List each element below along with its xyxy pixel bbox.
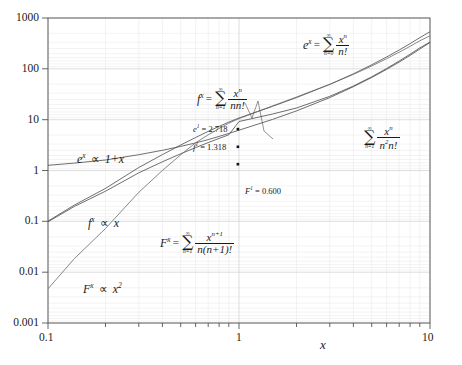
sigma-n2-lower: n=1 — [365, 144, 374, 149]
pt-e1-sup: 1 — [197, 123, 200, 129]
point-f1 — [237, 146, 240, 149]
sigma-ex: ∞ ∑ n=0 — [323, 33, 334, 56]
asym-Fx-rhs-sup: 2 — [118, 281, 122, 290]
pt-f1-sup: 1 — [195, 141, 198, 147]
x-tick-1: 1 — [236, 331, 242, 343]
annotation-formula-Fx: Fx = ∞ ∑ n=1 xn+1 n(n+1)! — [160, 230, 235, 256]
y-tick-1: 1 — [0, 164, 39, 176]
formula-n2-num-sup: n — [389, 124, 392, 131]
point-F1 — [237, 163, 240, 166]
formula-Fx-den: n(n+1)! — [195, 243, 234, 256]
asym-ex-rhs: 1+x — [105, 152, 124, 166]
sigma-Fx-lower: n=1 — [183, 249, 192, 254]
formula-fx-lhs-sup: x — [200, 91, 203, 100]
y-tick-0.01: 0.01 — [0, 265, 39, 277]
sigma-Fx: ∞ ∑ n=1 — [182, 231, 193, 254]
log-log-chart: 1000 100 10 1 0.1 0.01 0.001 0.1 1 10 x … — [0, 0, 462, 365]
plot-area-svg — [0, 0, 462, 365]
sigma-fx: ∞ ∑ n=1 — [215, 87, 226, 110]
fraction-Fx: xn+1 n(n+1)! — [195, 230, 234, 256]
formula-n2-den-tail: n! — [388, 139, 397, 151]
pt-F1-value: = 0.600 — [255, 186, 281, 196]
annotation-asymptote-Fx: Fx ∝ x2 — [83, 282, 122, 295]
fraction-fx: xn nn! — [228, 86, 247, 112]
x-axis-ticks — [48, 323, 430, 329]
formula-Fx-num-sup: n+1 — [211, 230, 222, 237]
x-axis-title: x — [320, 337, 326, 353]
point-e1 — [237, 128, 240, 131]
fraction-ex: xn n! — [336, 32, 349, 58]
pt-f1-value: = 1.318 — [200, 142, 226, 152]
propto-icon: ∝ — [91, 152, 100, 166]
asym-fx-sup: x — [91, 215, 94, 224]
annotation-asymptote-fx: fx ∝ x — [88, 216, 119, 229]
formula-ex-num-sup: n — [344, 32, 347, 39]
annotation-formula-fx: fx = ∞ ∑ n=1 xn nn! — [197, 86, 248, 112]
sigma-fx-lower: n=1 — [216, 105, 225, 110]
annotation-formula-ex: ex = ∞ ∑ n=0 xn n! — [303, 32, 350, 58]
formula-fx-num-sup: n — [238, 86, 241, 93]
asym-Fx-sup: x — [90, 281, 93, 290]
annotation-point-f1: f1 = 1.318 — [193, 142, 226, 151]
asym-fx-rhs: x — [114, 216, 119, 230]
y-axis-ticks — [42, 18, 48, 323]
y-tick-10: 10 — [0, 113, 39, 125]
annotation-formula-n2nfact: ∞ ∑ n=1 xn n2n! — [363, 117, 401, 151]
formula-ex-lhs-sup: x — [308, 37, 311, 46]
annotation-point-e1: e1 = 2.718 — [193, 124, 228, 133]
pt-e1-value: = 2.718 — [202, 124, 228, 134]
x-tick-0.1: 0.1 — [39, 331, 53, 343]
formula-fx-den: nn! — [228, 99, 247, 112]
formula-ex-den: n! — [336, 45, 349, 58]
formula-Fx-lhs-sup: x — [167, 235, 170, 244]
y-tick-100: 100 — [0, 62, 39, 74]
pt-F1-sup: 1 — [250, 185, 253, 191]
formula-Fx-equals: = — [173, 237, 179, 248]
annotation-asymptote-ex: ex ∝ 1+x — [77, 152, 124, 165]
y-tick-1000: 1000 — [0, 11, 39, 23]
sigma-n2: ∞ ∑ n=1 — [364, 126, 375, 149]
fraction-n2: xn n2n! — [377, 124, 399, 151]
formula-fx-equals: = — [206, 93, 212, 104]
asym-ex-sup: x — [82, 151, 85, 160]
y-tick-0.001: 0.001 — [0, 316, 39, 328]
annotation-point-F1: F1 = 0.600 — [245, 186, 281, 195]
propto-icon: ∝ — [99, 282, 108, 296]
y-tick-0.1: 0.1 — [0, 214, 39, 226]
formula-ex-equals: = — [314, 39, 320, 50]
x-tick-10: 10 — [422, 331, 434, 343]
sigma-ex-lower: n=0 — [324, 51, 333, 56]
propto-icon: ∝ — [100, 216, 109, 230]
